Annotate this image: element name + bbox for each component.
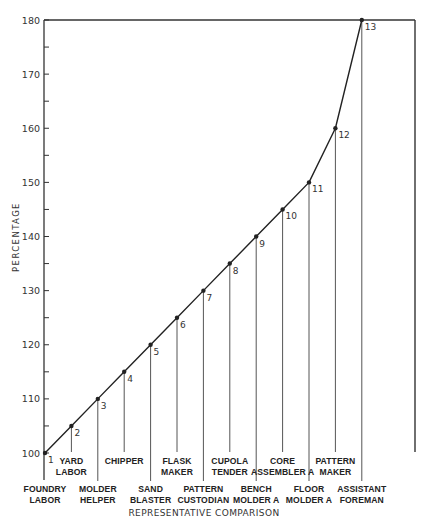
- data-point-marker: [280, 207, 284, 211]
- data-point-marker: [96, 397, 100, 401]
- y-tick-label: 110: [22, 393, 40, 404]
- category-labels: FOUNDRYLABORYARDLABORMOLDERHELPERCHIPPER…: [24, 456, 387, 505]
- data-point-marker: [228, 261, 232, 265]
- data-point-index-label: 8: [233, 266, 239, 276]
- y-tick-label: 150: [22, 177, 40, 188]
- y-tick-label: 130: [22, 285, 40, 296]
- category-label: MOLDER A: [286, 495, 332, 505]
- category-label: CHIPPER: [105, 456, 145, 466]
- category-label: CUPOLA: [211, 456, 248, 466]
- category-drop-lines: [71, 20, 361, 481]
- category-label: LABOR: [29, 495, 61, 505]
- y-tick-label: 170: [22, 69, 40, 80]
- data-point-index-label: 11: [312, 184, 323, 194]
- y-tick-label: 140: [22, 231, 40, 242]
- category-label: CORE: [270, 456, 295, 466]
- y-tick-label: 160: [22, 123, 40, 134]
- y-tick-label: 100: [22, 448, 40, 459]
- category-label: YARD: [59, 456, 83, 466]
- data-point-index-label: 5: [154, 347, 160, 357]
- data-point-index-label: 3: [101, 401, 107, 411]
- y-tick-label: 180: [22, 15, 40, 26]
- data-point-marker: [333, 126, 337, 130]
- percentage-line-chart: 100110120130140150160170180 123456789101…: [0, 0, 428, 523]
- y-axis: 100110120130140150160170180: [22, 15, 49, 481]
- data-point-index-label: 9: [259, 239, 265, 249]
- data-point-marker: [307, 180, 311, 184]
- data-point-marker: [201, 288, 205, 292]
- y-axis-title: PERCENTAGE: [11, 202, 21, 272]
- category-label: BLASTER: [130, 495, 172, 505]
- category-label: MAKER: [319, 467, 352, 477]
- category-label: FOUNDRY: [24, 484, 67, 494]
- category-label: FLOOR: [294, 484, 325, 494]
- data-point-index-label: 12: [338, 130, 349, 140]
- category-label: ASSEMBLER A: [251, 467, 314, 477]
- category-label: MOLDER: [79, 484, 118, 494]
- category-label: SAND: [138, 484, 163, 494]
- y-tick-label: 120: [22, 339, 40, 350]
- data-point-marker: [148, 343, 152, 347]
- data-point-marker: [360, 18, 364, 22]
- data-series-line: 12345678910111213: [43, 18, 376, 465]
- category-label: MAKER: [161, 467, 194, 477]
- data-point-index-label: 1: [48, 455, 54, 465]
- category-label: ASSISTANT: [337, 484, 387, 494]
- data-point-marker: [122, 370, 126, 374]
- data-point-marker: [69, 424, 73, 428]
- category-label: FLASK: [162, 456, 192, 466]
- category-label: BENCH: [241, 484, 272, 494]
- data-point-marker: [254, 234, 258, 238]
- data-point-marker: [175, 315, 179, 319]
- data-point-index-label: 2: [74, 428, 80, 438]
- category-label: HELPER: [80, 495, 116, 505]
- data-point-index-label: 4: [127, 374, 133, 384]
- category-label: CUSTODIAN: [177, 495, 229, 505]
- category-label: PATTERN: [315, 456, 355, 466]
- data-point-index-label: 6: [180, 320, 186, 330]
- x-axis-title: REPRESENTATIVE COMPARISON: [128, 508, 279, 518]
- category-label: TENDER: [212, 467, 249, 477]
- data-point-index-label: 7: [206, 293, 212, 303]
- category-label: FOREMAN: [340, 495, 384, 505]
- category-label: LABOR: [56, 467, 88, 477]
- category-label: PATTERN: [183, 484, 223, 494]
- data-point-index-label: 10: [286, 211, 298, 221]
- category-label: MOLDER A: [233, 495, 279, 505]
- data-point-index-label: 13: [365, 22, 376, 32]
- data-point-marker: [43, 451, 47, 455]
